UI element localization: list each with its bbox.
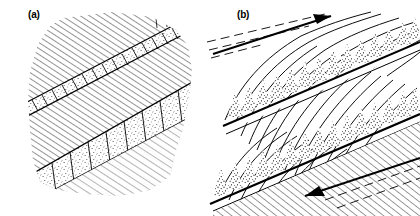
panel-a: (a) bbox=[0, 0, 205, 216]
top-shear-arrow-b bbox=[207, 14, 331, 58]
panel-a-drawing bbox=[0, 0, 205, 216]
figure-container: (a) bbox=[0, 0, 420, 216]
panel-b: (b) bbox=[205, 0, 420, 216]
panel-a-label: (a) bbox=[28, 9, 40, 20]
panel-b-label: (b) bbox=[237, 9, 249, 20]
panel-b-drawing bbox=[205, 0, 420, 216]
